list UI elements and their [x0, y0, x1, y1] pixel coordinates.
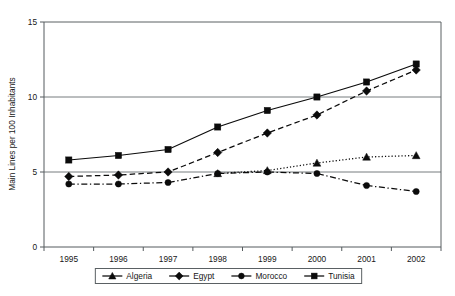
x-tick-label: 1996 [109, 254, 128, 264]
y-tick-label: 15 [28, 17, 38, 27]
legend-label: Tunisia [328, 271, 355, 281]
data-point-marker [413, 188, 419, 194]
y-axis-ticks: 051015 [28, 17, 44, 252]
x-tick-label: 1998 [208, 254, 227, 264]
data-point-marker [264, 107, 270, 113]
data-point-marker [215, 170, 221, 176]
chart-canvas: 051015 19951996199719981999200020012002 … [0, 0, 455, 296]
line-chart: 051015 19951996199719981999200020012002 … [0, 0, 455, 296]
data-point-marker [363, 182, 369, 188]
x-axis-ticks: 19951996199719981999200020012002 [44, 247, 441, 264]
data-point-marker [115, 181, 121, 187]
x-tick-label: 1997 [159, 254, 178, 264]
legend-label: Egypt [193, 271, 215, 281]
data-point-marker [165, 146, 171, 152]
x-tick-label: 2002 [407, 254, 426, 264]
x-tick-label: 2001 [357, 254, 376, 264]
y-axis-title: Main Lines per 100 Inhabitants [7, 77, 17, 190]
data-point-marker [363, 79, 369, 85]
data-point-marker [66, 181, 72, 187]
data-point-marker [238, 273, 244, 279]
chart-legend: AlgeriaEgyptMoroccoTunisia [95, 269, 361, 284]
data-point-marker [165, 179, 171, 185]
legend-label: Algeria [126, 271, 152, 281]
data-point-marker [264, 169, 270, 175]
y-tick-label: 0 [32, 242, 37, 252]
data-point-marker [314, 170, 320, 176]
y-tick-label: 10 [28, 92, 38, 102]
x-tick-label: 2000 [308, 254, 327, 264]
plot-background [44, 22, 441, 247]
x-tick-label: 1999 [258, 254, 277, 264]
data-point-marker [66, 157, 72, 163]
x-tick-label: 1995 [60, 254, 79, 264]
y-tick-label: 5 [32, 167, 37, 177]
data-point-marker [215, 124, 221, 130]
data-point-marker [413, 61, 419, 67]
data-point-marker [311, 273, 317, 279]
legend-label: Morocco [255, 271, 287, 281]
data-point-marker [314, 94, 320, 100]
data-point-marker [115, 152, 121, 158]
